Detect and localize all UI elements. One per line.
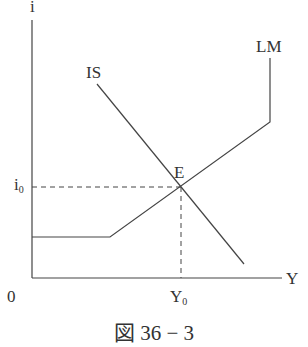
x-axis-label: Y xyxy=(286,270,298,287)
figure-caption: 図 36 − 3 xyxy=(0,316,308,346)
i0-sub: 0 xyxy=(19,184,24,195)
y0-sub: 0 xyxy=(182,296,187,307)
lm-curve xyxy=(32,58,270,237)
is-label: IS xyxy=(86,64,101,81)
is-curve xyxy=(97,84,244,264)
y0-label: Y0 xyxy=(170,288,187,307)
y0-main: Y xyxy=(170,287,182,306)
is-lm-diagram: i Y 0 IS LM E i0 Y0 図 36 − 3 xyxy=(0,0,308,347)
origin-label: 0 xyxy=(7,288,16,305)
equilibrium-label: E xyxy=(174,164,184,181)
lm-label: LM xyxy=(256,38,282,55)
y-axis-label: i xyxy=(30,0,35,15)
i0-label: i0 xyxy=(14,176,24,195)
